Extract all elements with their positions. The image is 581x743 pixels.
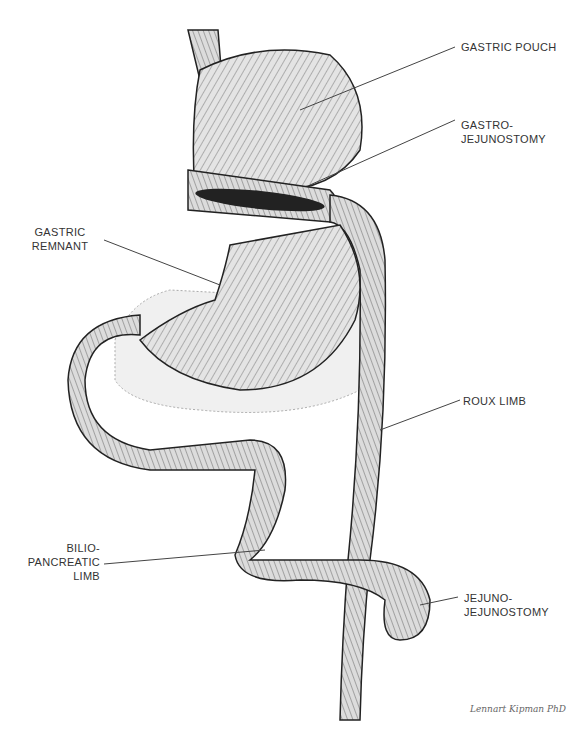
label-gastric-remnant: GASTRIC REMNANT	[20, 225, 100, 253]
artist-signature: Lennart Kipman PhD	[470, 704, 566, 714]
label-roux-limb: ROUX LIMB	[463, 394, 526, 408]
label-gastric-pouch: GASTRIC POUCH	[461, 40, 557, 54]
label-jejuno-jejunostomy: JEJUNO- JEJUNOSTOMY	[464, 591, 549, 619]
label-biliopancreatic-limb: BILIO- PANCREATIC LIMB	[10, 541, 100, 583]
gastric-bypass-illustration	[0, 0, 581, 743]
label-gastro-jejunostomy: GASTRO- JEJUNOSTOMY	[461, 118, 546, 146]
